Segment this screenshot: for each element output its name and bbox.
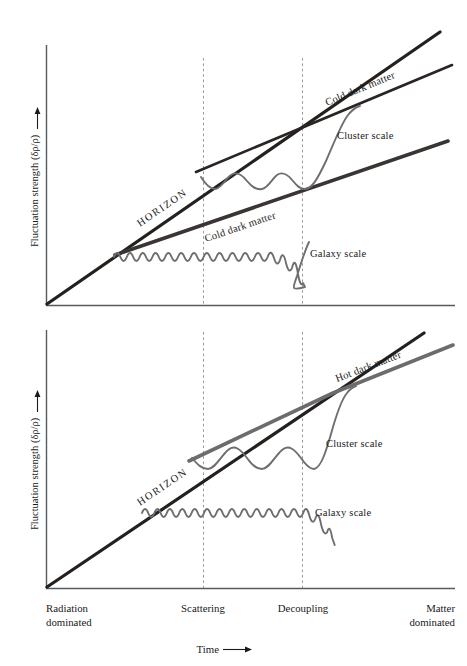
bottom-panel: HORIZON Hot dark matter Cluster scale Ga… [29,330,455,589]
bottom-panel-cluster-scale-label: Cluster scale [326,438,383,449]
x-tick-matter-line2: dominated [409,616,455,628]
bottom-panel-cluster-scale-curve [192,386,356,469]
x-axis-arrow-icon [223,647,252,653]
x-axis-tick-labels: Radiation dominated Scattering Decouplin… [46,602,456,628]
bottom-panel-galaxy-scale-curve [142,509,335,545]
top-panel-horizon-label: HORIZON [135,186,189,228]
x-tick-decoupling-line1: Decoupling [278,602,329,614]
x-tick-radiation-line2: dominated [46,616,92,628]
x-tick-matter-line1: Matter [426,602,455,614]
top-panel-y-axis-label: Fluctuation strength (δρ/ρ) [29,134,41,247]
top-panel-horizon-line [47,32,440,304]
top-panel-galaxy-scale-curve [114,242,309,289]
top-panel-cluster-scale-curve [201,106,360,189]
bottom-panel-y-axis-label: Fluctuation strength (δρ/ρ) [29,417,41,530]
top-panel-cold-dark-matter-lower-label: Cold dark matter [203,209,277,243]
top-panel-cluster-scale-label: Cluster scale [337,130,394,141]
bottom-panel-horizon-label: HORIZON [135,466,190,508]
x-tick-scattering-line1: Scattering [181,602,225,614]
top-panel-cold-dark-matter-upper-line [196,65,452,172]
x-tick-radiation-line1: Radiation [46,602,89,614]
bottom-panel-galaxy-scale-label: Galaxy scale [315,507,371,518]
x-axis-title-group: Time [197,643,252,655]
figure-canvas: HORIZON Cold dark matter Cold dark matte… [0,0,467,666]
cosmology-fluctuation-figure: HORIZON Cold dark matter Cold dark matte… [0,0,467,666]
top-panel-galaxy-scale-label: Galaxy scale [310,248,366,259]
x-axis-label: Time [197,643,220,655]
top-panel-y-axis-arrow-icon [35,107,41,129]
bottom-panel-y-axis-arrow-icon [35,390,41,412]
top-panel: HORIZON Cold dark matter Cold dark matte… [29,32,455,306]
